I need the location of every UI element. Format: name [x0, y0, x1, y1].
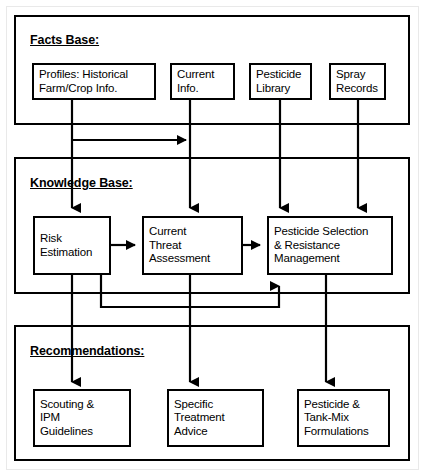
node-pesticide-library: Pesticide Library: [249, 63, 312, 100]
node-pesticide-tank-mix-line-3: Formulations: [304, 425, 384, 439]
panel-title-facts-base: Facts Base:: [30, 33, 99, 47]
node-pesticide-tank-mix-line-2: Tank-Mix: [304, 411, 384, 425]
node-scouting-ipm-line-3: Guidelines: [40, 425, 125, 439]
node-spray-records-line-2: Records: [336, 82, 380, 96]
node-specific-treatment-advice-line-2: Treatment: [174, 411, 258, 425]
panel-title-knowledge-base: Knowledge Base:: [30, 176, 133, 190]
node-pesticide-selection-line-1: Pesticide Selection: [274, 225, 387, 239]
panel-title-recommendations: Recommendations:: [30, 344, 144, 358]
node-pesticide-library-line-1: Pesticide: [256, 68, 306, 82]
node-scouting-ipm-line-1: Scouting &: [40, 398, 125, 412]
node-pesticide-selection: Pesticide Selection & Resistance Managem…: [267, 216, 393, 275]
node-risk-estimation-line-2: Estimation: [40, 246, 105, 260]
node-current-threat-assessment: Current Threat Assessment: [142, 216, 243, 275]
node-pesticide-selection-line-2: & Resistance: [274, 239, 387, 253]
node-profiles-line-1: Profiles: Historical: [39, 68, 150, 82]
node-risk-estimation: Risk Estimation: [33, 216, 111, 275]
node-pesticide-library-line-2: Library: [256, 82, 306, 96]
node-current-threat-assessment-line-3: Assessment: [149, 252, 237, 266]
diagram-canvas: Facts Base: Profiles: Historical Farm/Cr…: [0, 0, 425, 476]
node-pesticide-selection-line-3: Management: [274, 252, 387, 266]
node-current-info: Current Info.: [170, 63, 235, 100]
node-specific-treatment-advice-line-1: Specific: [174, 398, 258, 412]
node-scouting-ipm: Scouting & IPM Guidelines: [33, 389, 131, 447]
node-profiles: Profiles: Historical Farm/Crop Info.: [32, 63, 156, 100]
node-risk-estimation-line-1: Risk: [40, 232, 105, 246]
node-specific-treatment-advice-line-3: Advice: [174, 425, 258, 439]
node-specific-treatment-advice: Specific Treatment Advice: [167, 389, 264, 447]
node-current-info-line-2: Info.: [177, 82, 229, 96]
node-pesticide-tank-mix-line-1: Pesticide &: [304, 398, 384, 412]
node-scouting-ipm-line-2: IPM: [40, 411, 125, 425]
node-current-threat-assessment-line-1: Current: [149, 225, 237, 239]
node-spray-records-line-1: Spray: [336, 68, 380, 82]
node-pesticide-tank-mix: Pesticide & Tank-Mix Formulations: [297, 389, 390, 447]
node-spray-records: Spray Records: [329, 63, 386, 100]
node-profiles-line-2: Farm/Crop Info.: [39, 82, 150, 96]
node-current-info-line-1: Current: [177, 68, 229, 82]
node-current-threat-assessment-line-2: Threat: [149, 239, 237, 253]
